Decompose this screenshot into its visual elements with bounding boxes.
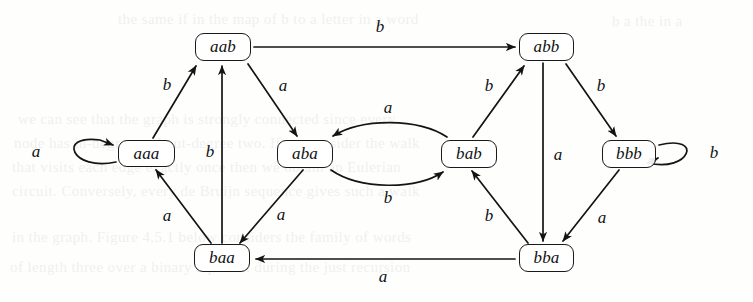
edge-label-aba-baa: a <box>277 205 286 225</box>
edge-label-aab-aba: a <box>279 76 288 96</box>
edge-label-bbb-bbb: b <box>710 143 719 163</box>
graph-node-aab[interactable]: aab <box>195 33 251 61</box>
graph-node-abb[interactable]: abb <box>519 33 574 61</box>
edge-bab-abb <box>473 66 524 137</box>
graph-node-bba[interactable]: bba <box>519 244 574 272</box>
graph-node-baa[interactable]: baa <box>194 244 250 272</box>
graph-node-label: bbb <box>616 144 642 164</box>
edge-label-baa-aab: b <box>206 142 215 162</box>
edge-aaa-aaa <box>74 139 116 163</box>
edge-aaa-aab <box>153 66 196 138</box>
graph-node-label: aba <box>292 144 318 164</box>
edge-label-aaa-aaa: a <box>32 142 41 162</box>
edge-label-bbb-bba: a <box>598 208 607 228</box>
edge-label-baa-aaa: a <box>163 206 172 226</box>
edge-label-bba-bab: b <box>485 206 494 226</box>
edge-bbb-bba <box>563 170 619 241</box>
edge-label-aba-bab: b <box>384 188 393 208</box>
graph-node-label: abb <box>533 37 559 57</box>
graph-node-label: aaa <box>133 144 159 164</box>
graph-node-bbb[interactable]: bbb <box>602 140 656 168</box>
edge-label-abb-bbb: b <box>597 76 606 96</box>
edge-label-bba-baa: a <box>379 267 388 287</box>
edge-bab-aba <box>333 123 447 137</box>
edge-bba-bab <box>472 171 528 243</box>
graph-node-label: bab <box>456 144 482 164</box>
edge-label-bab-aba: a <box>384 98 393 118</box>
edge-label-abb-bba: a <box>554 145 563 165</box>
edge-label-aab-abb: b <box>376 17 385 37</box>
graph-node-bab[interactable]: bab <box>441 140 497 168</box>
graph-node-aba[interactable]: aba <box>277 140 333 168</box>
edge-aba-bab <box>331 170 443 185</box>
edge-label-bab-abb: b <box>485 76 494 96</box>
edge-abb-bbb <box>566 64 616 136</box>
edge-aab-aba <box>248 64 297 136</box>
graph-node-label: bba <box>533 248 559 268</box>
edge-label-aaa-aab: b <box>163 75 172 95</box>
figure-canvas: the same if in the map of b to a letter … <box>0 0 753 302</box>
graph-node-aaa[interactable]: aaa <box>118 140 175 167</box>
graph-node-label: aab <box>210 37 236 57</box>
edge-aba-baa <box>240 170 303 243</box>
graph-node-label: baa <box>209 248 235 268</box>
